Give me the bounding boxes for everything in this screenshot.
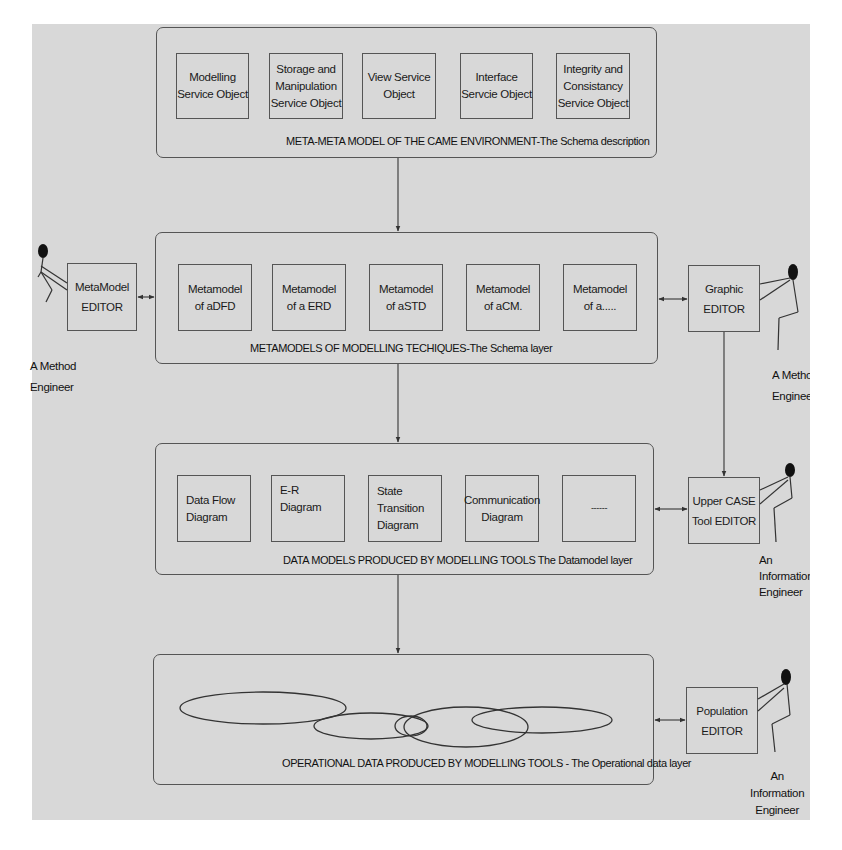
data-flow-diagram-box: Data Flow Diagram: [177, 475, 251, 542]
metamodel-other-box: Metamodel of a.....: [563, 264, 637, 331]
layer-caption-meta-meta: META-META MODEL OF THE CAME ENVIRONMENT-…: [286, 135, 650, 147]
population-editor-box: Population EDITOR: [686, 687, 758, 754]
metamodel-erd-box: Metamodel of a ERD: [272, 264, 346, 331]
box-label: Metamodel of aCM.: [476, 281, 530, 315]
box-label: Data Flow Diagram: [186, 492, 235, 526]
layer-caption-metamodels: METAMODELS OF MODELLING TECHIQUES-The Sc…: [250, 342, 552, 354]
box-label: Metamodel of aDFD: [188, 281, 242, 315]
box-label: View Service Object: [368, 69, 431, 103]
upper-case-tool-editor-box: Upper CASE Tool EDITOR: [688, 477, 760, 544]
interface-service-object-box: Interface Servcie Object: [460, 53, 533, 119]
storage-manipulation-service-object-box: Storage and Manipulation Service Object: [269, 53, 343, 119]
box-label: Integrity and Consistancy Service Object: [558, 61, 629, 112]
actor-label-method-engineer-right: A Method Engineer: [772, 365, 810, 407]
box-label: Communication Diagram: [464, 492, 540, 526]
editor-label: MetaModel EDITOR: [75, 277, 129, 317]
editor-label: Graphic EDITOR: [703, 279, 744, 319]
metamodel-dfd-box: Metamodel of aDFD: [178, 264, 252, 331]
metamodel-cm-box: Metamodel of aCM.: [466, 264, 540, 331]
box-label: Metamodel of aSTD: [379, 281, 433, 315]
graphic-editor-box: Graphic EDITOR: [688, 265, 760, 332]
box-label: Interface Servcie Object: [461, 69, 532, 103]
other-diagram-box: ------: [562, 475, 636, 542]
box-label: Metamodel of a ERD: [282, 281, 336, 315]
actor-label-information-engineer-1: An Information Engineer: [759, 552, 810, 600]
modelling-service-object-box: Modelling Service Object: [176, 53, 249, 119]
box-label: E-R Diagram: [280, 482, 321, 516]
box-label: Storage and Manipulation Service Object: [271, 61, 342, 112]
er-diagram-box: E-R Diagram: [271, 475, 345, 542]
box-label: Metamodel of a.....: [573, 281, 627, 315]
actor-label-method-engineer-left: A Method Engineer: [30, 356, 76, 398]
metamodel-editor-box: MetaModel EDITOR: [67, 263, 137, 331]
layer-caption-operational: OPERATIONAL DATA PRODUCED BY MODELLING T…: [282, 757, 691, 769]
view-service-object-box: View Service Object: [362, 53, 436, 119]
integrity-consistency-service-object-box: Integrity and Consistancy Service Object: [556, 53, 630, 119]
metamodel-std-box: Metamodel of aSTD: [369, 264, 443, 331]
box-label: ------: [591, 500, 607, 517]
layer-caption-data-models: DATA MODELS PRODUCED BY MODELLING TOOLS …: [283, 554, 632, 566]
box-label: State Transition Diagram: [377, 483, 424, 534]
state-transition-diagram-box: State Transition Diagram: [368, 475, 442, 542]
editor-label: Upper CASE Tool EDITOR: [692, 491, 756, 531]
communication-diagram-box: Communication Diagram: [465, 475, 539, 542]
box-label: Modelling Service Object: [177, 69, 248, 103]
actor-label-information-engineer-2: An Information Engineer: [750, 768, 804, 819]
editor-label: Population EDITOR: [696, 701, 747, 741]
